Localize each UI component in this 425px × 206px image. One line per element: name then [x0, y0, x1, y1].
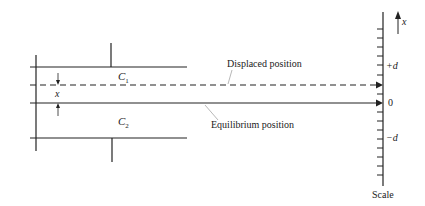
zero-label: 0 [388, 98, 393, 108]
displaced-arrowhead-icon [376, 82, 383, 89]
displaced-leader [228, 70, 232, 84]
x-axis-arrowhead-icon [395, 11, 401, 19]
scale-label: Scale [372, 190, 394, 200]
gap-arrowhead-top-icon [56, 80, 60, 85]
capacitive-sensor-diagram [0, 0, 425, 206]
displaced-position-label: Displaced position [227, 59, 302, 69]
equilibrium-leader [205, 105, 218, 120]
minus-d-label: −d [386, 133, 398, 143]
equilibrium-position-label: Equilibrium position [211, 120, 294, 130]
plus-d-label: +d [386, 61, 398, 71]
c1-label: C1 [118, 71, 129, 85]
gap-label: x [55, 89, 59, 99]
gap-arrowhead-bottom-icon [56, 103, 60, 108]
scale-axis-label: x [402, 17, 406, 27]
equilibrium-arrowhead-icon [376, 100, 383, 107]
c2-label: C2 [118, 116, 129, 130]
